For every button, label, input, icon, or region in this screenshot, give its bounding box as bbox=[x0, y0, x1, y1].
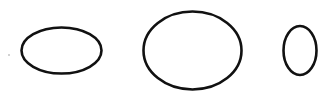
large-ellipse bbox=[144, 12, 242, 90]
tall-ellipse bbox=[284, 26, 317, 75]
speck-dot bbox=[8, 54, 10, 56]
diagram-canvas bbox=[0, 0, 331, 100]
ellipses-diagram bbox=[0, 0, 331, 100]
wide-ellipse bbox=[22, 28, 102, 74]
